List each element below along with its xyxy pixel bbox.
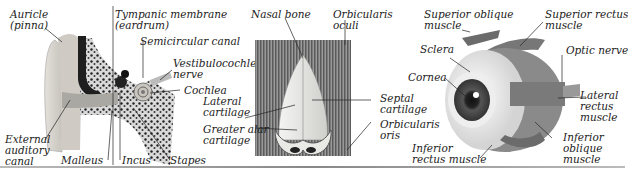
ear-figure: Auricle (pinna) Tympanic membrane (eardr…: [0, 0, 215, 166]
label-external-auditory-canal: External auditory canal: [5, 134, 50, 167]
label-incus: Incus: [122, 155, 151, 166]
label-greater-alar-cartilage: Greater alar cartilage: [203, 124, 269, 146]
label-superior-oblique-muscle: Superior oblique muscle: [424, 9, 513, 31]
bottom-divider: [0, 166, 625, 168]
label-stapes: Stapes: [170, 155, 206, 166]
label-inferior-oblique-muscle: Inferior oblique muscle: [563, 132, 604, 165]
label-cornea: Cornea: [408, 72, 447, 83]
label-nasal-bone: Nasal bone: [251, 9, 311, 20]
label-optic-nerve: Optic nerve: [566, 45, 628, 56]
label-malleus: Malleus: [61, 155, 103, 166]
label-lateral-rectus-muscle: Lateral rectus muscle: [580, 90, 618, 123]
label-inferior-rectus-muscle: Inferior rectus muscle: [412, 143, 486, 165]
label-auricle: Auricle (pinna): [10, 9, 48, 31]
label-tympanic-membrane: Tympanic membrane (eardrum): [115, 9, 227, 31]
label-superior-rectus-muscle: Superior rectus muscle: [545, 9, 628, 31]
label-sclera: Sclera: [420, 44, 454, 55]
label-lateral-cartilage: Lateral cartilage: [203, 96, 250, 118]
nose-figure: Nasal bone Orbicularis oculi Lateral car…: [215, 0, 375, 166]
eye-figure: Superior oblique muscle Superior rectus …: [380, 0, 625, 166]
